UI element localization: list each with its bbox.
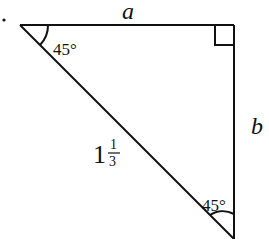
hypotenuse-whole: 1 xyxy=(93,140,106,169)
bullet-dot xyxy=(2,18,5,21)
hypotenuse-denominator: 3 xyxy=(109,154,116,169)
side-a-label: a xyxy=(122,0,134,24)
angle-arc-top-left xyxy=(40,25,48,45)
hypotenuse-numerator: 1 xyxy=(110,137,117,152)
triangle-diagram: a b 45° 45° 1 1 3 xyxy=(0,0,269,239)
angle-label-bottom-right: 45° xyxy=(202,196,226,215)
angle-label-top-left: 45° xyxy=(53,40,77,59)
hypotenuse-label: 1 1 3 xyxy=(93,137,120,169)
right-angle-marker xyxy=(215,25,234,45)
side-b-label: b xyxy=(251,113,263,139)
